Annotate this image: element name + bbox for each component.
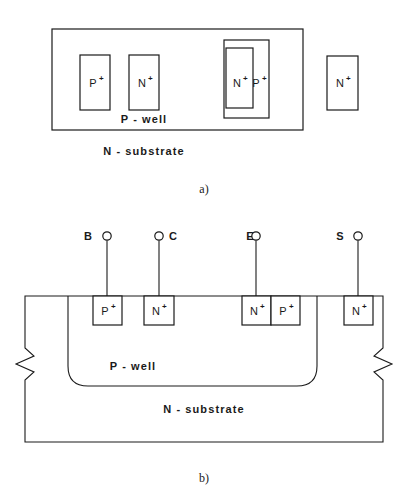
p-plus-base-sup-cross: + xyxy=(111,302,116,311)
caption-b: b) xyxy=(199,471,209,485)
n-plus-collector-label-top: N xyxy=(138,77,146,89)
figure-page: P + N + P + N + N + P - well N - substra… xyxy=(0,0,409,503)
n-plus-emitter-label-cross: N xyxy=(250,305,258,317)
terminal-base-label: B xyxy=(84,230,92,242)
n-plus-substrate-contact-label-cross: N xyxy=(352,305,360,317)
p-plus-base-label-cross: P xyxy=(101,305,108,317)
panel-a-top-view: P + N + P + N + N + P - well N - substra… xyxy=(52,29,358,196)
caption-a: a) xyxy=(199,182,208,196)
n-substrate-label-cross: N - substrate xyxy=(163,403,245,415)
terminal-substrate-label: S xyxy=(336,230,343,242)
semiconductor-figure: P + N + P + N + N + P - well N - substra… xyxy=(0,0,409,503)
n-substrate-outline xyxy=(16,296,392,442)
n-plus-emitter-sup-cross: + xyxy=(260,302,265,311)
n-plus-collector-sup-cross: + xyxy=(162,302,167,311)
terminal-collector-label: C xyxy=(169,230,177,242)
n-plus-collector-label-cross: N xyxy=(152,305,160,317)
p-plus-emitter-adjacent-sup-cross: + xyxy=(289,302,294,311)
n-plus-substrate-contact-label-top: N xyxy=(336,77,344,89)
n-plus-emitter-label-top: N xyxy=(233,77,241,89)
terminal-emitter-node[interactable] xyxy=(252,232,260,240)
p-plus-emitter-ring-sup-top: + xyxy=(262,74,267,83)
p-plus-base-sup-top: + xyxy=(99,74,104,83)
n-plus-substrate-contact-sup-cross: + xyxy=(362,302,367,311)
p-plus-base-label-top: P xyxy=(89,77,96,89)
terminal-substrate-node[interactable] xyxy=(354,232,362,240)
terminal-collector-node[interactable] xyxy=(155,232,163,240)
n-plus-emitter-sup-top: + xyxy=(243,74,248,83)
terminal-base-node[interactable] xyxy=(103,232,111,240)
n-plus-substrate-contact-sup-top: + xyxy=(346,74,351,83)
p-well-label-cross: P - well xyxy=(110,360,157,372)
n-substrate-label-top: N - substrate xyxy=(103,145,185,157)
p-plus-emitter-adjacent-label-cross: P xyxy=(279,305,286,317)
p-well-label-top: P - well xyxy=(121,113,168,125)
panel-b-cross-section: B C E S P + N + xyxy=(16,230,392,485)
n-plus-collector-sup-top: + xyxy=(148,74,153,83)
